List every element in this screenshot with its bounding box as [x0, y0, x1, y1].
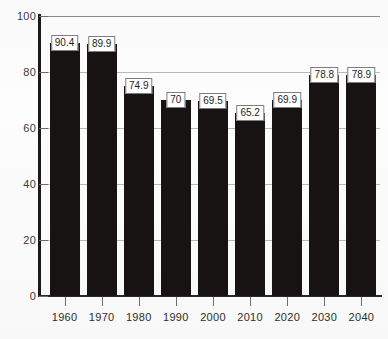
value-label-1990: 70: [166, 92, 185, 108]
x-tick-label-1980: 1980: [126, 311, 152, 323]
bar-1960: [50, 43, 80, 296]
x-tick-label-1960: 1960: [52, 311, 78, 323]
gridline-100: [46, 16, 380, 17]
y-tick-mark: [39, 240, 48, 241]
value-label-1960: 90.4: [51, 35, 78, 51]
value-label-1970: 89.9: [88, 36, 115, 52]
y-tick-label: 0: [0, 290, 36, 302]
x-tick-label-2020: 2020: [274, 311, 300, 323]
y-tick-mark: [39, 184, 48, 185]
value-label-2020: 69.9: [273, 92, 300, 108]
y-tick-label: 20: [0, 234, 36, 246]
x-tick-mark: [361, 297, 362, 306]
x-tick-label-2030: 2030: [311, 311, 337, 323]
y-axis-line: [38, 14, 41, 297]
bar-2020: [272, 100, 302, 296]
bar-2000: [198, 101, 228, 296]
y-tick-label: 60: [0, 122, 36, 134]
y-tick-label: 80: [0, 66, 36, 78]
x-tick-mark: [139, 297, 140, 306]
y-tick-label: 100: [0, 10, 36, 22]
x-tick-label-2000: 2000: [200, 311, 226, 323]
value-label-2010: 65.2: [236, 105, 263, 121]
value-label-2030: 78.8: [311, 67, 338, 83]
x-tick-label-2040: 2040: [349, 311, 375, 323]
x-tick-mark: [65, 297, 66, 306]
y-tick-mark: [39, 72, 48, 73]
bar-2030: [309, 75, 339, 296]
x-tick-label-2010: 2010: [237, 311, 263, 323]
x-tick-label-1970: 1970: [89, 311, 115, 323]
bar-2010: [235, 113, 265, 296]
x-tick-mark: [102, 297, 103, 306]
bar-1980: [124, 86, 154, 296]
y-tick-mark: [39, 296, 48, 297]
y-tick-mark: [39, 16, 48, 17]
x-tick-mark: [324, 297, 325, 306]
bar-1970: [87, 44, 117, 296]
x-tick-mark: [250, 297, 251, 306]
value-label-1980: 74.9: [125, 78, 152, 94]
bar-1990: [161, 100, 191, 296]
x-tick-mark: [176, 297, 177, 306]
value-label-2040: 78.9: [348, 67, 375, 83]
bar-chart: 020406080100 90.489.974.97069.565.269.97…: [0, 0, 388, 339]
x-tick-mark: [287, 297, 288, 306]
x-tick-label-1990: 1990: [163, 311, 189, 323]
x-tick-mark: [213, 297, 214, 306]
y-tick-label: 40: [0, 178, 36, 190]
value-label-2000: 69.5: [199, 93, 226, 109]
y-tick-mark: [39, 128, 48, 129]
bar-2040: [346, 75, 376, 296]
